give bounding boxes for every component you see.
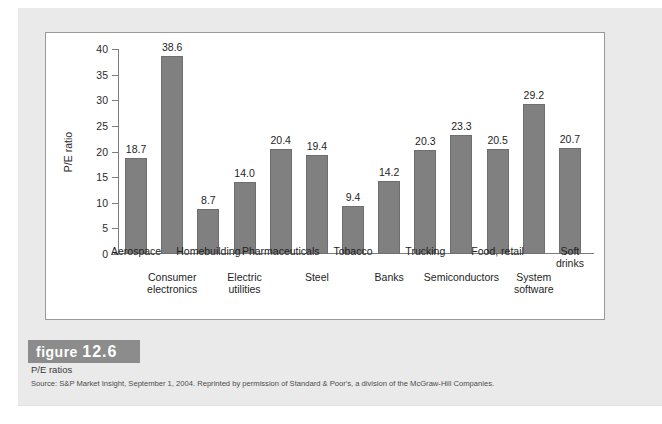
bar-value-label: 18.7 [126, 143, 146, 155]
y-axis-tick-label: 15 [96, 171, 108, 183]
bar-value-label: 20.3 [415, 135, 435, 147]
bar-value-label: 14.0 [234, 167, 254, 179]
plot-area: P/E ratio 0510152025303540 18.738.68.714… [118, 49, 588, 254]
bar-value-label: 20.5 [487, 134, 507, 146]
bar-slot: 20.4 [262, 49, 300, 254]
x-axis-label-line: System [486, 271, 582, 283]
bar-value-label: 8.7 [201, 194, 216, 206]
bar-slot: 20.3 [406, 49, 444, 254]
bar-value-label: 14.2 [379, 166, 399, 178]
bar-slot: 20.5 [479, 49, 517, 254]
bar-slot: 19.4 [298, 49, 336, 254]
bar[interactable] [234, 182, 256, 254]
x-axis-label-line: Soft [522, 245, 618, 257]
bar-slot: 14.0 [226, 49, 264, 254]
y-axis-title: P/E ratio [62, 131, 74, 171]
bar-slot: 18.7 [117, 49, 155, 254]
bar-slot: 29.2 [515, 49, 553, 254]
bar-value-label: 20.4 [270, 134, 290, 146]
x-axis-label: Softdrinks [522, 245, 618, 269]
bar[interactable] [414, 150, 436, 254]
bar-slot: 9.4 [334, 49, 372, 254]
bar-value-label: 20.7 [560, 133, 580, 145]
figure-number: 12.6 [82, 343, 117, 360]
bar[interactable] [161, 56, 183, 254]
x-axis-label-line: drinks [522, 257, 618, 269]
bar-value-label: 19.4 [307, 140, 327, 152]
x-axis-label-line: software [486, 283, 582, 295]
y-axis-tick-label: 30 [96, 94, 108, 106]
bar-slot: 38.6 [153, 49, 191, 254]
y-axis-tick-label: 25 [96, 120, 108, 132]
bar[interactable] [378, 181, 400, 254]
y-axis-tick-label: 35 [96, 69, 108, 81]
bar-value-label: 23.3 [451, 120, 471, 132]
y-axis-tick-label: 10 [96, 197, 108, 209]
bar-value-label: 9.4 [346, 191, 361, 203]
y-axis-tick-label: 20 [96, 146, 108, 158]
x-axis-label-line: utilities [197, 283, 293, 295]
bar-slot: 20.7 [551, 49, 589, 254]
bar-slot: 8.7 [189, 49, 227, 254]
bar[interactable] [270, 149, 292, 254]
bar[interactable] [559, 148, 581, 254]
figure-subtitle: P/E ratios [31, 364, 72, 375]
bar[interactable] [450, 135, 472, 254]
figure-badge-text: figure 12.6 [36, 343, 117, 361]
y-axis-tick-label: 40 [96, 43, 108, 55]
figure-badge-word: figure [36, 344, 78, 360]
bar[interactable] [306, 155, 328, 254]
bar-value-label: 38.6 [162, 41, 182, 53]
bar-slot: 14.2 [370, 49, 408, 254]
chart-panel: P/E ratio 0510152025303540 18.738.68.714… [45, 32, 605, 320]
figure-source-note: Source: S&P Market Insight, September 1,… [31, 379, 494, 388]
bar-slot: 23.3 [442, 49, 480, 254]
bar[interactable] [523, 104, 545, 254]
y-axis-tick-label: 5 [102, 222, 108, 234]
bar[interactable] [487, 149, 509, 254]
bar[interactable] [125, 158, 147, 254]
x-axis-label: Systemsoftware [486, 271, 582, 295]
figure-badge: figure 12.6 [28, 340, 140, 363]
bar-value-label: 29.2 [524, 89, 544, 101]
